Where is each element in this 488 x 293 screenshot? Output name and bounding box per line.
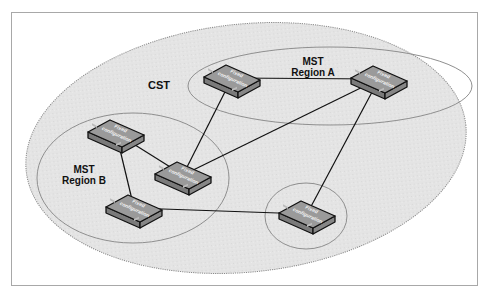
region-b-label-line2: Region B [62,175,106,186]
region-a-label-line2: Region A [291,67,335,78]
region-a-label-line1: MST [302,56,323,67]
region-b-label-line1: MST [73,164,94,175]
cst-label: CST [148,79,170,91]
network-diagram: FixedconfigurationFixedconfigurationFixe… [0,0,488,293]
